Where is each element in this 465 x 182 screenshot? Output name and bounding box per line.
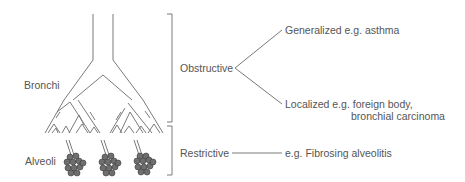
obstructive-bracket [167,14,172,122]
alveoli-label: Alveoli [25,155,56,167]
obstructive-label: Obstructive [180,62,233,74]
generalized-label: Generalized e.g. asthma [285,24,399,36]
restrictive-label: Restrictive [180,147,229,159]
localized-label-line2: bronchial carcinoma [351,110,445,122]
fibrosing-label: e.g. Fibrosing alveolitis [285,147,392,159]
alveoli-cluster-2 [99,140,121,176]
alveoli-cluster-3 [134,140,156,175]
bronchial-tree [45,14,163,133]
alveoli-cluster-1 [64,140,86,176]
restrictive-bracket [167,126,172,175]
localized-label-line1: Localized e.g. foreign body, [285,98,413,110]
alveoli-clusters [64,140,156,176]
obstructive-connector [235,30,282,104]
bronchi-label: Bronchi [24,79,60,91]
